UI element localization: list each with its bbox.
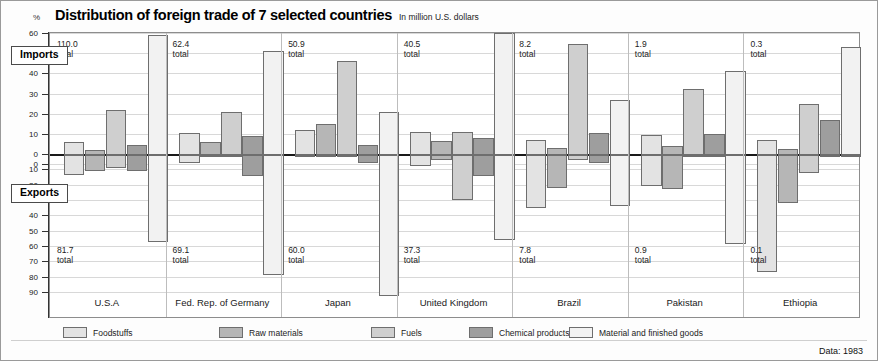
import-bar [337, 61, 358, 155]
export-bar [295, 155, 316, 157]
export-bar [200, 155, 221, 157]
import-bar [452, 132, 473, 155]
legend-swatch [63, 327, 87, 338]
category-label-ethiopia: Ethiopia [783, 297, 817, 308]
import-bar [242, 136, 263, 155]
y-axis-tick-label: 0 [34, 150, 38, 159]
y-axis-tick-label: 80 [29, 272, 38, 281]
export-bar [64, 155, 85, 175]
group-separator [512, 33, 513, 317]
export-bar [431, 155, 452, 160]
legend-label: Chemical products [499, 328, 569, 338]
gridline [50, 261, 859, 262]
legend-item: Raw materials [219, 327, 303, 338]
export-total-label: 69.1total [173, 246, 190, 265]
import-bar [473, 138, 494, 155]
legend-swatch [219, 327, 243, 338]
export-total-label: 37.3total [404, 246, 421, 265]
import-bar [64, 142, 85, 155]
import-bar [799, 104, 820, 155]
y-axis-tick-label: 40 [29, 69, 38, 78]
legend-label: Foodstuffs [93, 328, 133, 338]
category-axis: U.S.AFed. Rep. of GermanyJapanUnited Kin… [49, 297, 860, 317]
export-bar [683, 155, 704, 157]
import-bar [127, 145, 148, 155]
group-separator [397, 33, 398, 317]
y-axis-tick-label: 60 [29, 242, 38, 251]
export-bar [221, 155, 242, 157]
import-bar [662, 146, 683, 155]
import-bar [106, 110, 127, 155]
source-note: Data: 1983 [819, 346, 863, 356]
chart-figure: % Distribution of foreign trade of 7 sel… [0, 0, 878, 361]
category-label-japan: Japan [325, 297, 351, 308]
legend-item: Fuels [371, 327, 422, 338]
export-bar [568, 155, 589, 160]
legend-label: Material and finished goods [599, 328, 703, 338]
export-total-label: 7.8total [519, 246, 535, 265]
gridline [50, 292, 859, 293]
category-label-pakistan: Pakistan [666, 297, 702, 308]
export-bar [337, 155, 358, 157]
y-axis-tick-label: 30 [29, 89, 38, 98]
export-bar [526, 155, 547, 208]
import-bar [757, 140, 778, 155]
import-bar [410, 132, 431, 155]
import-bar [200, 142, 221, 155]
import-bar [316, 124, 337, 155]
import-bar [820, 120, 841, 155]
export-bar [820, 155, 841, 157]
export-total-label: 0.9total [635, 246, 651, 265]
exports-label: Exports [11, 184, 68, 203]
y-axis-tick-label: 60 [29, 29, 38, 38]
import-bar [221, 112, 242, 155]
y-axis-tick-label: 90 [29, 288, 38, 297]
import-total-label: 62.4total [173, 40, 190, 59]
category-label-brazil: Brazil [557, 297, 581, 308]
import-total-label: 1.9total [635, 40, 651, 59]
import-total-label: 0.3total [750, 40, 766, 59]
export-bar [85, 155, 106, 171]
export-bar [799, 155, 820, 173]
legend-swatch [469, 327, 493, 338]
gridline [50, 246, 859, 247]
export-bar [641, 155, 662, 186]
export-bar [179, 155, 200, 163]
legend-item: Material and finished goods [569, 327, 703, 338]
legend-swatch [569, 327, 593, 338]
export-bar [106, 155, 127, 168]
import-bar [431, 141, 452, 155]
export-bar [242, 155, 263, 176]
category-label-u-s-a: U.S.A [94, 297, 119, 308]
group-separator [166, 33, 167, 317]
export-bar [778, 155, 799, 203]
imports-label: Imports [11, 46, 68, 65]
y-axis-tick-label: 20 [29, 109, 38, 118]
y-axis-tick-label: 10 [29, 129, 38, 138]
plot-area: 110.0total81.7total62.4total69.1total50.… [49, 32, 860, 318]
export-total-label: 81.7total [57, 246, 74, 265]
export-bar [547, 155, 568, 188]
chart-title: Distribution of foreign trade of 7 selec… [55, 7, 392, 23]
y-axis-tick-label: 0 [34, 160, 38, 169]
export-bar [704, 155, 725, 157]
import-bar [841, 47, 862, 155]
import-total-label: 8.2total [519, 40, 535, 59]
import-bar [683, 89, 704, 155]
footer-divider [11, 340, 867, 341]
legend-item: Foodstuffs [63, 327, 133, 338]
import-bar [589, 133, 610, 155]
import-bar [547, 148, 568, 155]
export-total-label: 0.1total [750, 246, 766, 265]
y-axis-tick-label: 40 [29, 211, 38, 220]
import-bar [568, 44, 589, 155]
y-axis-tick-label: 50 [29, 226, 38, 235]
percent-axis-symbol: % [33, 13, 40, 22]
group-separator [743, 33, 744, 317]
y-axis-tick-label: 70 [29, 257, 38, 266]
gridline [50, 53, 859, 54]
category-label-fed-rep-of-germany: Fed. Rep. of Germany [175, 297, 269, 308]
export-bar [473, 155, 494, 176]
export-bar [662, 155, 683, 189]
legend-label: Fuels [401, 328, 422, 338]
